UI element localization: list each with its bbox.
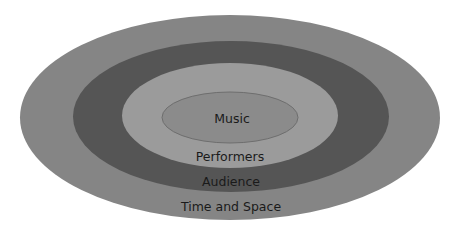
label-music: Music: [214, 111, 250, 126]
concentric-ellipse-diagram: Time and Space Audience Performers Music: [0, 0, 465, 228]
label-audience: Audience: [202, 174, 260, 189]
label-time-and-space: Time and Space: [180, 199, 281, 214]
label-performers: Performers: [196, 149, 264, 164]
